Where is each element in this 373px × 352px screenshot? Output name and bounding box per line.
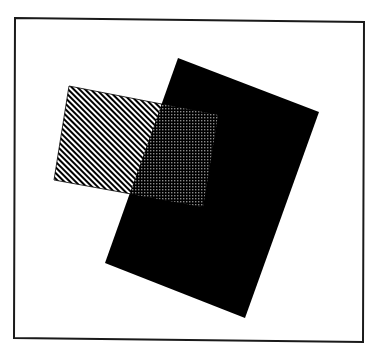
figure-canvas — [0, 0, 373, 352]
